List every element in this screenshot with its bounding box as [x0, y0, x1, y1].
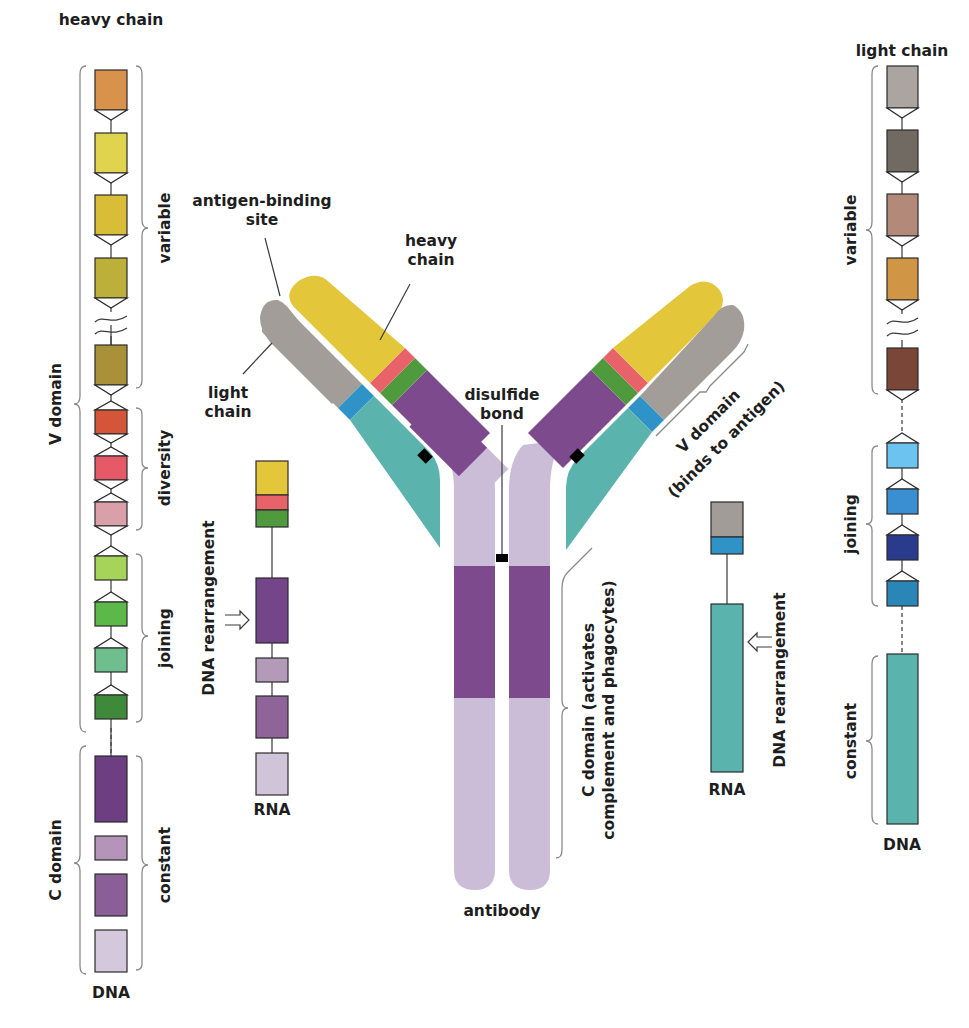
joining-label: joining — [156, 608, 174, 669]
heavy-chain-stem-right — [509, 440, 562, 890]
diversity-brace — [136, 408, 148, 530]
variable-brace — [136, 66, 148, 388]
light-constant-brace — [866, 656, 878, 824]
light-chain-rna: DNA rearrangement RNA — [709, 502, 789, 799]
heavy-c-segment — [95, 836, 127, 860]
light-variable-label: variable — [842, 195, 860, 266]
v-domain-brace — [74, 66, 86, 732]
light-rearrangement-label: DNA rearrangement — [771, 592, 789, 768]
heavy-constant-segments — [95, 756, 127, 972]
heavy-chain-dna: heavy chain — [47, 11, 174, 1002]
diversity-label: diversity — [156, 430, 174, 507]
joining-brace — [136, 554, 148, 722]
light-constant-segments — [887, 654, 918, 824]
light-variable-brace — [866, 66, 878, 394]
heavy-v-segment — [95, 70, 127, 110]
heavy-v-segment — [95, 195, 127, 235]
heavy-diversity-segments — [95, 401, 127, 535]
c-domain-antibody-label: C domain (activates — [580, 623, 598, 797]
heavy-d-segment — [95, 410, 127, 434]
light-constant-label: constant — [842, 702, 860, 779]
heavy-c-segment — [95, 756, 127, 822]
antigen-binding-site-label: antigen-bindingsite — [192, 192, 331, 229]
light-chain-dna-title: light chain — [856, 42, 949, 60]
light-chain-label: lightchain — [204, 384, 251, 421]
c-domain-label: C domain — [47, 819, 65, 900]
heavy-d-segment — [95, 502, 127, 526]
light-chain-leader — [243, 343, 272, 374]
heavy-chain-leader — [380, 284, 410, 340]
heavy-j-segment — [95, 556, 127, 580]
heavy-chain-stem-left — [440, 440, 495, 890]
light-chain-dna: light chain — [842, 42, 948, 854]
constant-label: constant — [156, 826, 174, 903]
light-joining-label: joining — [842, 494, 860, 555]
heavy-j-segment — [95, 648, 127, 672]
c-domain-note: complement and phagocytes) — [600, 580, 618, 839]
heavy-chain-label: heavychain — [405, 232, 457, 269]
heavy-rearrangement-label: DNA rearrangement — [200, 520, 218, 696]
c-domain-brace — [74, 746, 86, 974]
disulfide-bond-label: disulfidebond — [464, 386, 539, 423]
constant-brace — [136, 756, 148, 970]
heavy-j-segment — [95, 695, 127, 719]
light-variable-segments — [884, 66, 922, 400]
variable-label: variable — [156, 193, 174, 264]
rearrangement-arrow-icon — [748, 633, 772, 651]
rearrangement-arrow-icon — [225, 611, 249, 629]
light-joining-brace — [866, 446, 878, 606]
heavy-c-segment — [95, 874, 127, 916]
heavy-chain-rna: DNA rearrangement RNA — [200, 461, 290, 819]
heavy-dna-label: DNA — [92, 984, 130, 1002]
light-dna-label: DNA — [883, 836, 921, 854]
antigen-site-leader — [265, 238, 280, 296]
antibody-diagram: heavy chain — [0, 0, 969, 1028]
v-domain-label: V domain — [47, 363, 65, 445]
heavy-v-segment — [95, 133, 127, 173]
heavy-v-segment — [95, 345, 127, 385]
antibody-label: antibody — [463, 902, 540, 920]
heavy-c-segment — [95, 930, 127, 972]
heavy-chain-dna-title: heavy chain — [59, 11, 164, 29]
heavy-rna-label: RNA — [254, 801, 291, 819]
heavy-d-segment — [95, 456, 127, 480]
heavy-v-segment — [95, 258, 127, 298]
light-rna-label: RNA — [709, 781, 746, 799]
central-disulfide-bond — [496, 554, 508, 562]
heavy-variable-segments — [92, 70, 130, 395]
heavy-j-segment — [95, 602, 127, 626]
